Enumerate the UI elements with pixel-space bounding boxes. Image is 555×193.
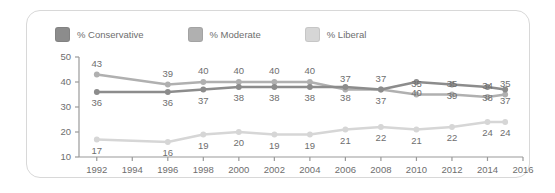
data-point-label: 20 [234,137,245,148]
data-point-label: 40 [305,65,316,76]
x-axis-tick-label: 2016 [505,164,541,175]
data-point-label: 37 [198,95,209,106]
data-point-label: 19 [305,140,316,151]
x-axis-tick-label: 2006 [327,164,363,175]
data-point-label: 36 [91,97,102,108]
data-point-label: 38 [305,92,316,103]
x-axis-tick-label: 1996 [150,164,186,175]
x-axis-tick-label: 1994 [114,164,150,175]
x-axis-tick-label: 2008 [363,164,399,175]
x-axis-tick-label: 2012 [434,164,470,175]
x-axis-tick-label: 2002 [256,164,292,175]
x-axis-tick-label: 2010 [398,164,434,175]
data-point-label: 38 [482,92,493,103]
data-point-label: 24 [500,127,511,138]
y-axis-tick-label: 30 [47,101,71,112]
data-point-label: 37 [376,95,387,106]
x-axis-tick-label: 2004 [292,164,328,175]
data-point-label: 38 [269,92,280,103]
data-point-label: 38 [340,92,351,103]
data-point-label: 19 [198,140,209,151]
data-point-label: 34 [482,80,493,91]
data-point-label: 17 [91,145,102,156]
data-point-label: 40 [269,65,280,76]
data-point-label: 22 [447,132,458,143]
x-axis-tick-label: 1992 [79,164,115,175]
y-axis-tick-label: 40 [47,76,71,87]
x-axis-tick-label: 1998 [185,164,221,175]
data-point-label: 35 [411,78,422,89]
data-point-label: 40 [198,65,209,76]
y-axis-tick-label: 10 [47,151,71,162]
data-point-label: 16 [163,147,174,158]
line-chart-plot: 1020304050199219941996199820002002200420… [27,11,531,179]
chart-card: % Conservative % Moderate % Liberal 1020… [26,10,530,178]
data-point-label: 37 [340,73,351,84]
data-point-label: 35 [500,78,511,89]
data-point-label: 39 [447,90,458,101]
data-point-label: 36 [163,97,174,108]
data-point-label: 22 [376,132,387,143]
x-axis-tick-label: 2014 [469,164,505,175]
data-point-label: 40 [411,87,422,98]
x-axis-tick-label: 2000 [221,164,257,175]
data-point-label: 37 [500,95,511,106]
data-point-label: 38 [234,92,245,103]
y-axis-tick-label: 20 [47,126,71,137]
data-point-label: 24 [482,127,493,138]
data-point-label: 35 [447,78,458,89]
data-point-label: 43 [91,58,102,69]
data-point-label: 21 [340,135,351,146]
y-axis-tick-label: 50 [47,51,71,62]
data-point-label: 21 [411,135,422,146]
data-point-label: 40 [234,65,245,76]
data-point-label: 19 [269,140,280,151]
data-point-label: 37 [376,73,387,84]
data-point-label: 39 [163,68,174,79]
